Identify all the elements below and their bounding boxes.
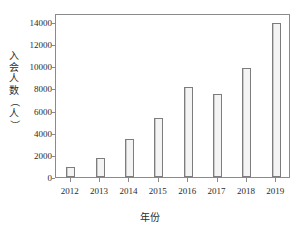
x-axis-tick-labels: 20122013201420152016201720182019 bbox=[55, 186, 290, 200]
x-axis-tick bbox=[158, 178, 159, 182]
y-axis-tick-labels: 02000400060008000100001200014000 bbox=[18, 0, 52, 237]
y-axis-tick-label: 4000 bbox=[18, 129, 52, 139]
plot-area bbox=[55, 14, 290, 178]
bar bbox=[213, 94, 222, 177]
bar bbox=[66, 167, 75, 177]
y-axis-tick-label: 6000 bbox=[18, 107, 52, 117]
bar bbox=[125, 139, 134, 177]
x-axis-tick bbox=[128, 178, 129, 182]
y-axis-tick-label: 12000 bbox=[18, 40, 52, 50]
y-axis-tick-label: 2000 bbox=[18, 151, 52, 161]
y-axis-tick-label: 14000 bbox=[18, 18, 52, 28]
y-axis-tick-label: 0 bbox=[18, 173, 52, 183]
y-axis-tick-label: 8000 bbox=[18, 84, 52, 94]
x-axis-title: 年份 bbox=[0, 209, 300, 224]
bar bbox=[96, 158, 105, 177]
bar bbox=[154, 118, 163, 177]
x-axis-tick bbox=[187, 178, 188, 182]
x-axis-tick bbox=[99, 178, 100, 182]
bar bbox=[242, 68, 251, 177]
x-axis-tick bbox=[275, 178, 276, 182]
bar-chart: 入 会 人 数 （ 人 ） 02000400060008000100001200… bbox=[0, 0, 300, 237]
x-axis-tick-label: 2019 bbox=[255, 186, 295, 196]
bar-series bbox=[56, 15, 289, 177]
x-axis-tick bbox=[70, 178, 71, 182]
bar bbox=[272, 23, 281, 177]
x-axis-ticks bbox=[55, 178, 290, 183]
x-axis-tick bbox=[217, 178, 218, 182]
bar bbox=[184, 87, 193, 177]
y-axis-tick-label: 10000 bbox=[18, 62, 52, 72]
x-axis-tick bbox=[246, 178, 247, 182]
